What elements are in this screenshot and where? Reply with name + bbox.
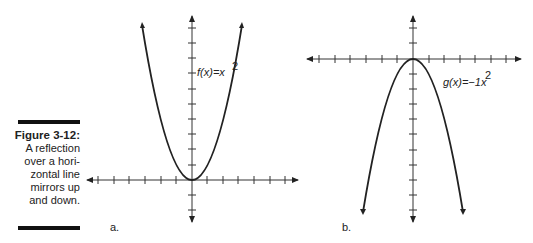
panel-label-b: b. <box>342 221 351 233</box>
exponent-f: 2 <box>232 60 238 72</box>
function-label-g: g(x)=−1x <box>443 76 487 88</box>
graph-a: f(x)=x 2 a. <box>87 16 298 233</box>
function-label-f: f(x)=x <box>197 66 225 78</box>
graph-b: g(x)=−1x 2 b. <box>307 16 521 233</box>
graphs-svg: f(x)=x 2 a. <box>0 0 533 243</box>
figure-page: Figure 3-12: A reflection over a hori- z… <box>0 0 533 243</box>
exponent-g: 2 <box>485 69 491 81</box>
panel-label-a: a. <box>110 221 119 233</box>
